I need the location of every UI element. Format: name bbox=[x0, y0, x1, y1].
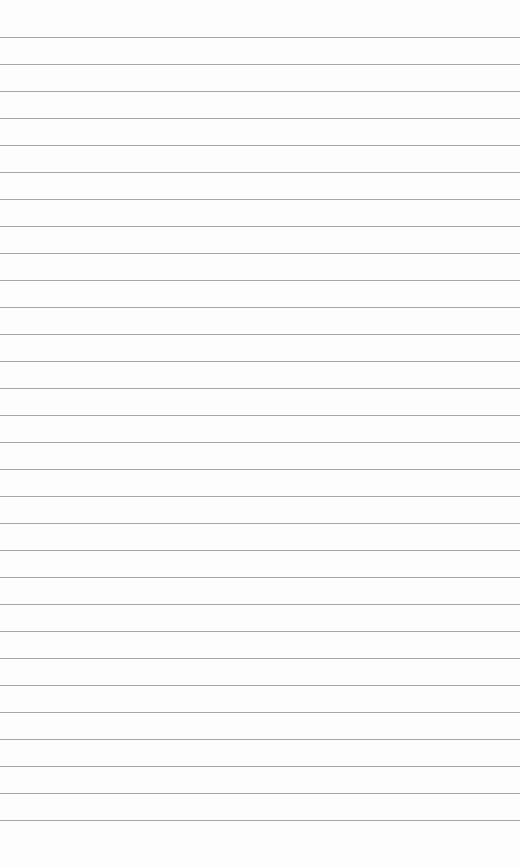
ruled-line bbox=[0, 334, 520, 335]
ruled-line bbox=[0, 64, 520, 65]
ruled-line bbox=[0, 631, 520, 632]
ruled-line bbox=[0, 361, 520, 362]
ruled-line bbox=[0, 604, 520, 605]
ruled-line bbox=[0, 820, 520, 821]
ruled-line bbox=[0, 415, 520, 416]
ruled-line bbox=[0, 226, 520, 227]
ruled-line bbox=[0, 91, 520, 92]
ruled-line bbox=[0, 442, 520, 443]
ruled-line bbox=[0, 253, 520, 254]
ruled-line bbox=[0, 118, 520, 119]
ruled-line bbox=[0, 658, 520, 659]
ruled-line bbox=[0, 307, 520, 308]
ruled-line bbox=[0, 199, 520, 200]
ruled-line bbox=[0, 766, 520, 767]
ruled-line bbox=[0, 172, 520, 173]
lined-paper bbox=[0, 0, 520, 867]
ruled-line bbox=[0, 523, 520, 524]
ruled-line bbox=[0, 739, 520, 740]
ruled-line bbox=[0, 469, 520, 470]
ruled-line bbox=[0, 550, 520, 551]
ruled-line bbox=[0, 145, 520, 146]
ruled-line bbox=[0, 577, 520, 578]
ruled-line bbox=[0, 37, 520, 38]
ruled-line bbox=[0, 712, 520, 713]
ruled-line bbox=[0, 793, 520, 794]
ruled-line bbox=[0, 685, 520, 686]
ruled-line bbox=[0, 280, 520, 281]
ruled-line bbox=[0, 388, 520, 389]
ruled-line bbox=[0, 496, 520, 497]
